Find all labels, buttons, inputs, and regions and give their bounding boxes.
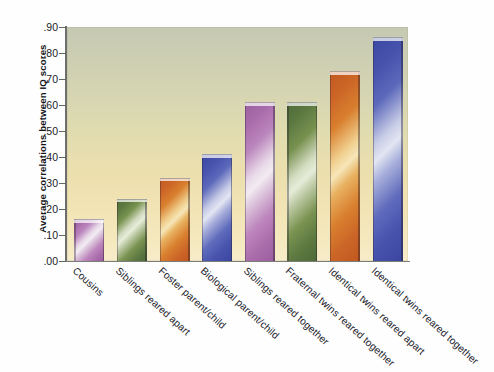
y-tick-mark (59, 235, 66, 236)
y-tick-mark (59, 27, 66, 28)
x-tick-label: Siblings reared apart (114, 265, 193, 337)
x-tick-label: Identical twins reared together (369, 265, 480, 367)
x-tick-label: Biological parent/child (199, 265, 282, 341)
bar-edge-r (273, 102, 275, 261)
y-tick-label: .50 (26, 126, 58, 137)
y-tick-mark (59, 53, 66, 54)
bar-edge-l (202, 154, 203, 261)
y-tick-label: .30 (26, 178, 58, 189)
bar-cap (287, 102, 317, 106)
iq-correlation-bar-chart: Average correlations between IQ scores .… (0, 0, 494, 372)
y-tick-label: .90 (26, 22, 58, 33)
x-tick-label: Fraternal twins reared together (284, 265, 397, 368)
bar-face (74, 219, 104, 261)
bar[interactable] (330, 71, 360, 261)
bar-cap (117, 199, 147, 203)
bar-cap (373, 37, 403, 41)
bar-face (373, 37, 403, 261)
bar-cap (74, 219, 104, 223)
bar-cap (245, 102, 275, 106)
x-tick-label: Foster parent/child (156, 265, 227, 331)
bar-face (287, 102, 317, 261)
bar-edge-l (74, 219, 75, 261)
y-tick-label: .20 (26, 204, 58, 215)
y-tick-label: .40 (26, 152, 58, 163)
x-tick-label: Identical twins reared apart (327, 265, 427, 357)
bar-face (117, 199, 147, 261)
bar-edge-l (245, 102, 246, 261)
bar[interactable] (245, 102, 275, 261)
y-tick-mark (59, 79, 66, 80)
bar-cap (160, 178, 190, 182)
bar-face (202, 154, 232, 261)
bar-cap (330, 71, 360, 75)
bar[interactable] (74, 219, 104, 261)
bar-edge-r (316, 102, 318, 261)
bar-edge-l (117, 199, 118, 261)
bar-edge-r (145, 199, 147, 261)
y-tick-mark (59, 261, 66, 262)
y-tick-mark (59, 183, 66, 184)
bar-edge-r (103, 219, 105, 261)
y-tick-label: .80 (26, 48, 58, 59)
y-tick-mark (59, 209, 66, 210)
y-tick-mark (59, 131, 66, 132)
bar-edge-l (373, 37, 374, 261)
y-tick-mark (59, 105, 66, 106)
bar[interactable] (117, 199, 147, 261)
bar-edge-r (358, 71, 360, 261)
bar[interactable] (373, 37, 403, 261)
y-tick-label: .10 (26, 230, 58, 241)
x-tick-label: Cousins (71, 265, 106, 298)
y-tick-label: .00 (26, 256, 58, 267)
bar-face (245, 102, 275, 261)
y-tick-label: .70 (26, 74, 58, 85)
bar-edge-l (160, 178, 161, 261)
bar[interactable] (287, 102, 317, 261)
bar-edge-l (287, 102, 288, 261)
x-tick-label: Siblings reared together (241, 265, 331, 347)
plot-area (67, 27, 408, 261)
bar-edge-r (231, 154, 233, 261)
y-tick-label: .60 (26, 100, 58, 111)
bar-cap (202, 154, 232, 158)
bar-edge-r (188, 178, 190, 261)
bar[interactable] (160, 178, 190, 261)
y-tick-mark (59, 157, 66, 158)
bar[interactable] (202, 154, 232, 261)
bar-face (160, 178, 190, 261)
bar-face (330, 71, 360, 261)
bar-edge-r (401, 37, 403, 261)
y-axis-tick-labels: .90.80.70.60.50.40.30.20.10.00 (26, 20, 58, 270)
bar-edge-l (330, 71, 331, 261)
